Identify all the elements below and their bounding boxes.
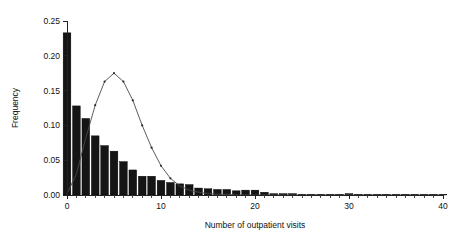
bar bbox=[148, 176, 156, 195]
x-tick-label: 0 bbox=[65, 201, 70, 211]
y-tick-label: 0.25 bbox=[43, 16, 60, 26]
x-axis-title: Number of outpatient visits bbox=[205, 220, 306, 230]
chart-svg: 010203040 0.000.050.100.150.200.25 Numbe… bbox=[0, 0, 456, 242]
line-point bbox=[94, 104, 96, 106]
y-tick-label: 0.00 bbox=[43, 190, 60, 200]
line-point bbox=[188, 189, 190, 191]
line-point bbox=[122, 80, 124, 82]
y-tick-label: 0.10 bbox=[43, 120, 60, 130]
bar bbox=[120, 162, 128, 195]
y-axis-tick-labels: 0.000.050.100.150.200.25 bbox=[43, 16, 60, 200]
line-point bbox=[85, 137, 87, 139]
bar bbox=[101, 146, 109, 195]
line-point bbox=[198, 191, 200, 193]
line-point bbox=[160, 165, 162, 167]
line-point bbox=[75, 173, 77, 175]
bar bbox=[110, 151, 118, 195]
line-point bbox=[132, 99, 134, 101]
line-point bbox=[179, 185, 181, 187]
bar-series bbox=[63, 33, 447, 195]
figure-container: 010203040 0.000.050.100.150.200.25 Numbe… bbox=[0, 0, 456, 242]
y-tick-label: 0.05 bbox=[43, 155, 60, 165]
y-tick-label: 0.15 bbox=[43, 86, 60, 96]
line-point bbox=[207, 193, 209, 195]
line-point bbox=[141, 124, 143, 126]
x-tick-label: 30 bbox=[344, 201, 354, 211]
line-point bbox=[113, 72, 115, 74]
line-point bbox=[104, 80, 106, 82]
y-axis-title: Frequency bbox=[10, 87, 20, 128]
bar bbox=[167, 182, 175, 195]
line-point bbox=[151, 147, 153, 149]
bar bbox=[91, 136, 99, 195]
bar bbox=[138, 176, 146, 195]
line-point bbox=[169, 177, 171, 179]
x-axis-tick-labels: 010203040 bbox=[65, 201, 448, 211]
bar bbox=[129, 170, 137, 195]
bar bbox=[73, 106, 81, 195]
x-tick-label: 20 bbox=[250, 201, 260, 211]
x-tick-label: 10 bbox=[156, 201, 166, 211]
x-tick-label: 40 bbox=[438, 201, 448, 211]
y-tick-label: 0.20 bbox=[43, 51, 60, 61]
bar bbox=[157, 180, 165, 195]
